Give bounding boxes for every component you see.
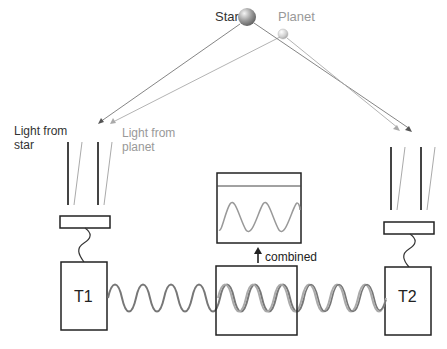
star-label: Star	[215, 9, 240, 24]
star-ray-left-arrowhead-icon	[98, 118, 104, 124]
star-ray-right-arrowhead-icon	[405, 126, 412, 132]
t1-cable	[79, 228, 90, 262]
light-from-star-label-line1: Light from	[14, 124, 67, 138]
telescope-t2: T2	[384, 222, 434, 335]
t2-cable	[404, 234, 415, 267]
combined-output-display	[217, 173, 301, 243]
t2-planet-beam-a	[397, 147, 405, 210]
interferometer-diagram: Star Planet Light from star Light from p…	[0, 0, 447, 349]
rays-to-t2	[254, 23, 412, 132]
light-from-star-label-line2: star	[14, 138, 34, 152]
rays-to-t1	[98, 24, 280, 124]
t1-light-beams	[68, 142, 112, 205]
combined-indicator: combined	[254, 247, 317, 264]
t1-detector	[60, 216, 110, 228]
star-ray-right	[254, 23, 410, 129]
planet-label: Planet	[278, 9, 315, 24]
t1-planet-beam-b	[104, 142, 112, 205]
planet-ray-right	[287, 38, 398, 128]
output-screen	[217, 173, 301, 243]
t2-detector	[384, 222, 434, 234]
telescope-t1: T1	[60, 216, 110, 330]
t1-label: T1	[74, 288, 93, 305]
t1-planet-beam-a	[74, 142, 82, 205]
arrow-up-icon	[254, 247, 262, 254]
beam-combiner-box	[216, 266, 297, 335]
t2-light-beams	[391, 147, 435, 210]
planet-ray-right-arrowhead-icon	[393, 125, 400, 131]
star-sphere-icon	[238, 8, 256, 26]
t2-planet-beam-b	[427, 147, 435, 210]
light-from-planet-label-line2: planet	[122, 140, 155, 154]
light-from-planet-label-line1: Light from	[122, 126, 175, 140]
combined-label: combined	[265, 250, 317, 264]
planet-ray-left	[113, 37, 280, 122]
sky-sources: Star Planet	[215, 8, 315, 39]
star-ray-left	[100, 24, 240, 122]
t2-label: T2	[398, 288, 417, 305]
